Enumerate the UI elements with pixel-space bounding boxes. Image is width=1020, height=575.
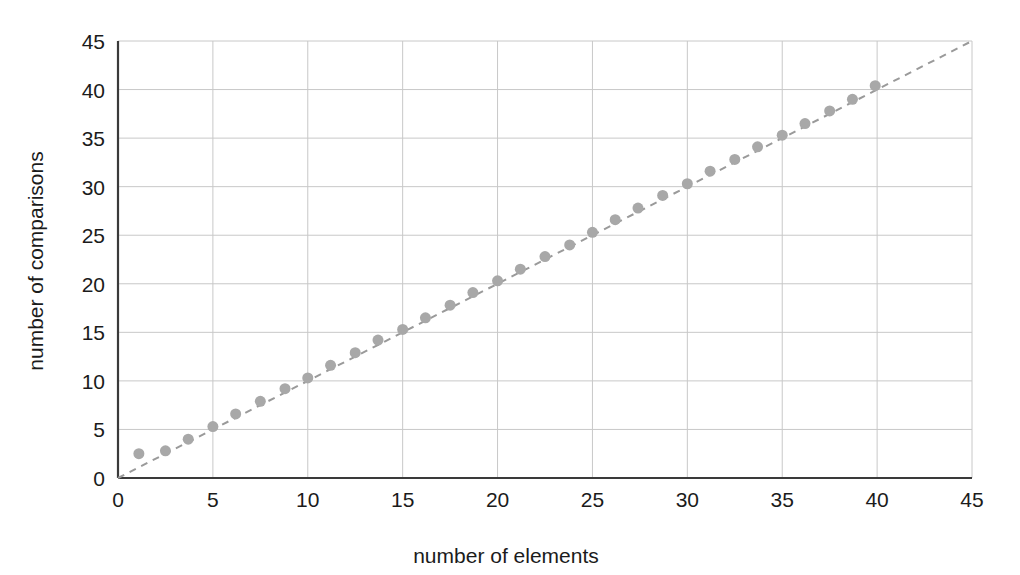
- x-tick-label: 0: [112, 488, 124, 511]
- y-tick-label: 45: [82, 30, 105, 53]
- x-tick-label: 15: [391, 488, 414, 511]
- x-tick-label: 45: [960, 488, 983, 511]
- data-point: [350, 347, 361, 358]
- data-point: [230, 408, 241, 419]
- y-tick-label: 0: [93, 467, 105, 490]
- data-point: [445, 300, 456, 311]
- y-tick-label: 30: [82, 176, 105, 199]
- data-point: [847, 94, 858, 105]
- data-point: [799, 118, 810, 129]
- data-point: [302, 372, 313, 383]
- data-point: [160, 445, 171, 456]
- y-tick-label: 35: [82, 127, 105, 150]
- x-tick-label: 25: [581, 488, 604, 511]
- data-point: [705, 166, 716, 177]
- x-tick-label: 20: [486, 488, 509, 511]
- data-point: [372, 335, 383, 346]
- data-point: [632, 203, 643, 214]
- scatter-plot: 051015202530354045 051015202530354045 nu…: [0, 0, 1020, 575]
- y-axis-title: number of comparisons: [24, 151, 47, 370]
- data-point: [682, 178, 693, 189]
- data-point: [752, 141, 763, 152]
- y-tick-label: 10: [82, 370, 105, 393]
- data-point: [397, 324, 408, 335]
- x-tick-label: 10: [296, 488, 319, 511]
- y-tick-label: 15: [82, 321, 105, 344]
- data-point: [657, 190, 668, 201]
- data-point: [325, 360, 336, 371]
- y-tick-label: 20: [82, 273, 105, 296]
- data-point: [420, 312, 431, 323]
- data-point: [870, 80, 881, 91]
- data-point: [492, 275, 503, 286]
- y-tick-label: 25: [82, 224, 105, 247]
- data-point: [729, 154, 740, 165]
- data-point: [610, 214, 621, 225]
- data-point: [824, 105, 835, 116]
- x-tick-label: 40: [865, 488, 888, 511]
- y-tick-label: 5: [93, 418, 105, 441]
- chart-figure: 051015202530354045 051015202530354045 nu…: [0, 0, 1020, 575]
- data-point: [587, 227, 598, 238]
- x-tick-label: 30: [676, 488, 699, 511]
- data-point: [255, 396, 266, 407]
- x-tick-label: 35: [771, 488, 794, 511]
- data-point: [280, 383, 291, 394]
- x-axis-title: number of elements: [413, 544, 599, 567]
- data-point: [467, 287, 478, 298]
- data-point: [515, 264, 526, 275]
- x-tick-label: 5: [207, 488, 219, 511]
- y-tick-label: 40: [82, 79, 105, 102]
- data-point: [133, 448, 144, 459]
- data-point: [564, 239, 575, 250]
- data-point: [183, 434, 194, 445]
- data-point: [540, 251, 551, 262]
- data-point: [207, 421, 218, 432]
- data-point: [777, 130, 788, 141]
